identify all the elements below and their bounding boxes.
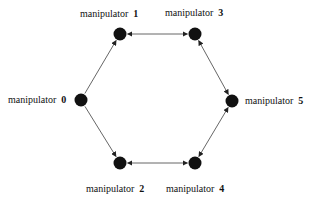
node-label-text: manipulator bbox=[245, 95, 296, 106]
node-manipulator-1 bbox=[114, 28, 127, 41]
edges-group bbox=[85, 34, 229, 163]
node-label-text: manipulator bbox=[165, 7, 216, 18]
edge-0-2 bbox=[85, 106, 116, 156]
node-label-number: 2 bbox=[139, 183, 144, 194]
node-label-number: 4 bbox=[219, 183, 224, 194]
node-manipulator-4 bbox=[189, 157, 202, 170]
node-label-5: manipulator 5 bbox=[245, 96, 303, 106]
edge-0-1 bbox=[85, 40, 116, 93]
node-label-1: manipulator 1 bbox=[80, 9, 138, 19]
edge-3-5 bbox=[199, 41, 229, 95]
nodes-group bbox=[75, 28, 239, 170]
node-manipulator-5 bbox=[226, 95, 239, 108]
node-label-2: manipulator 2 bbox=[86, 184, 144, 194]
node-label-number: 5 bbox=[298, 95, 303, 106]
node-manipulator-3 bbox=[189, 28, 202, 41]
node-label-text: manipulator bbox=[166, 183, 217, 194]
node-label-3: manipulator 3 bbox=[165, 8, 223, 18]
node-manipulator-0 bbox=[75, 94, 88, 107]
node-label-number: 1 bbox=[133, 8, 138, 19]
node-label-number: 0 bbox=[61, 94, 66, 105]
node-label-text: manipulator bbox=[80, 8, 131, 19]
node-label-number: 3 bbox=[218, 7, 223, 18]
node-label-4: manipulator 4 bbox=[166, 184, 224, 194]
edge-5-4 bbox=[199, 107, 228, 156]
node-label-0: manipulator 0 bbox=[8, 95, 66, 105]
node-manipulator-2 bbox=[114, 157, 127, 170]
node-label-text: manipulator bbox=[86, 183, 137, 194]
node-label-text: manipulator bbox=[8, 94, 59, 105]
